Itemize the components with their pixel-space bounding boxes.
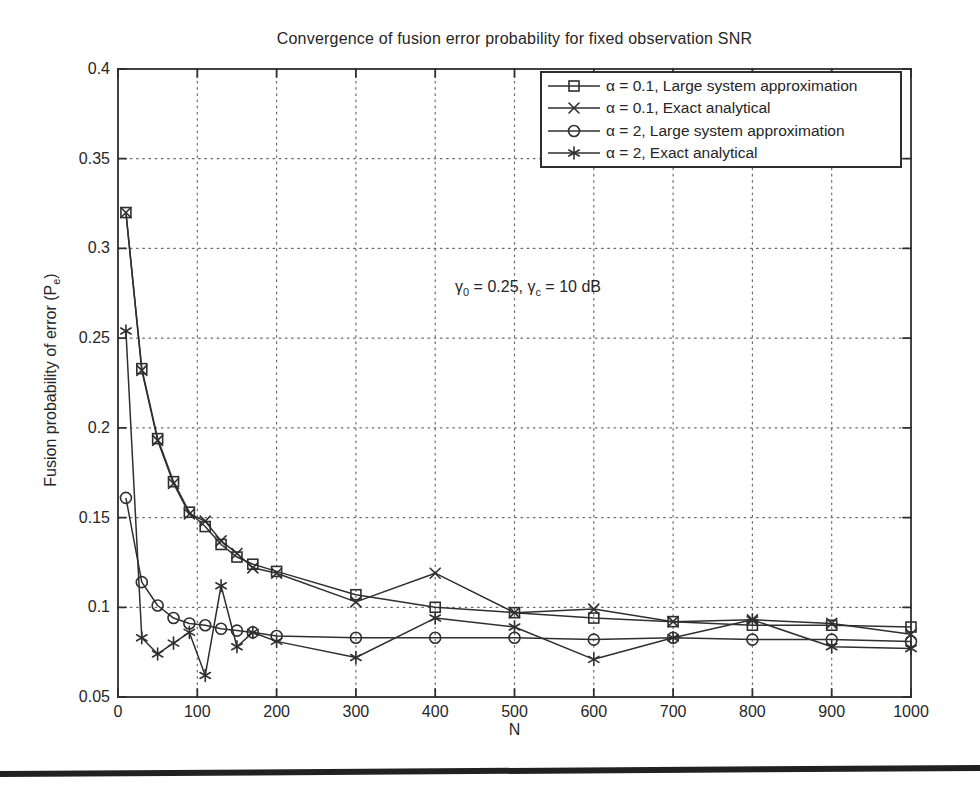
x-tick-label: 700 xyxy=(643,703,703,721)
legend-label: α = 2, Exact analytical xyxy=(606,144,758,162)
x-tick-label: 0 xyxy=(88,703,148,721)
x-tick-label: 900 xyxy=(802,703,862,721)
x-marker-icon xyxy=(542,98,606,118)
asterisk-marker-icon xyxy=(542,143,606,163)
legend-label: α = 0.1, Exact analytical xyxy=(606,99,770,117)
legend-label: α = 0.1, Large system approximation xyxy=(606,77,858,95)
x-tick-label: 100 xyxy=(167,703,227,721)
x-tick-label: 800 xyxy=(722,703,782,721)
legend-row: α = 0.1, Exact analytical xyxy=(542,97,900,119)
x-tick-label: 600 xyxy=(564,703,624,721)
gammac-value: = 10 dB xyxy=(541,278,601,295)
y-tick-label: 0.4 xyxy=(50,60,110,78)
legend: α = 0.1, Large system approximation α = … xyxy=(540,71,902,168)
gamma0-value: = 0.25, xyxy=(469,278,527,295)
x-tick-label: 500 xyxy=(485,703,545,721)
y-axis-label-main: Fusion probability of error (P xyxy=(42,285,59,487)
gamma0-symbol: γ xyxy=(455,278,463,295)
legend-label: α = 2, Large system approximation xyxy=(606,122,845,140)
legend-row: α = 0.1, Large system approximation xyxy=(542,75,900,97)
x-tick-label: 1000 xyxy=(881,703,941,721)
square-marker-icon xyxy=(542,76,606,96)
x-tick-label: 200 xyxy=(247,703,307,721)
legend-row: α = 2, Exact analytical xyxy=(542,142,900,164)
y-axis-label: Fusion probability of error (Pe) xyxy=(42,80,62,680)
annotation-snr-parameters: γ0 = 0.25, γc = 10 dB xyxy=(118,278,938,298)
legend-row: α = 2, Large system approximation xyxy=(542,120,900,142)
x-tick-label: 300 xyxy=(326,703,386,721)
x-tick-label: 400 xyxy=(405,703,465,721)
y-axis-label-close: ) xyxy=(42,273,59,278)
x-axis-label: N xyxy=(118,721,911,739)
y-axis-label-sub: e xyxy=(50,279,62,285)
circle-marker-icon xyxy=(542,121,606,141)
